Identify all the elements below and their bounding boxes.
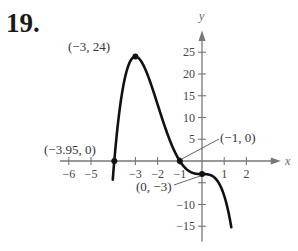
y-axis-arrow-icon (199, 31, 206, 41)
polynomial-graph: xy−6−5−3−2−112252015105−10−15(−3, 24)(−3… (0, 0, 298, 251)
y-tick-label: 25 (183, 45, 195, 59)
x-axis-arrow-icon (271, 158, 281, 165)
x-tick-label: −5 (85, 167, 98, 181)
x-tick-label: 2 (243, 167, 249, 181)
y-tick-label: 15 (183, 89, 195, 103)
key-point (111, 158, 117, 164)
y-tick-label: 10 (183, 111, 195, 125)
y-tick-label: −10 (176, 198, 195, 212)
x-axis-label: x (284, 154, 291, 168)
y-axis-label: y (198, 9, 205, 23)
y-tick-label: −15 (176, 219, 195, 233)
leader-line (182, 139, 219, 159)
x-tick-label: 1 (221, 167, 227, 181)
x-tick-label: −1 (173, 167, 186, 181)
max-point-label: (−3, 24) (68, 39, 110, 54)
y-tick-label: 20 (183, 67, 195, 81)
key-point (132, 54, 138, 60)
x-tick-label: −6 (62, 167, 75, 181)
right-root-label: (−1, 0) (220, 130, 256, 145)
left-root-label: (−3.95, 0) (44, 142, 96, 157)
y-tick-label: 5 (189, 132, 195, 146)
y-intercept-label: (0, −3) (136, 179, 172, 194)
